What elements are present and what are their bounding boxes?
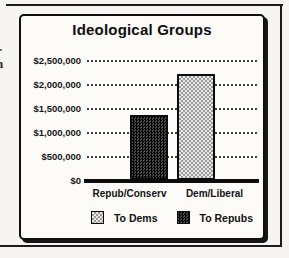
y-axis-label: $1,000,000 (17, 127, 81, 138)
y-axis-label: $2,000,000 (17, 79, 81, 90)
page-frame-bottom-line (0, 245, 282, 247)
margin-text-fragment: n (0, 57, 3, 70)
bar-to-dems (177, 74, 215, 180)
legend-item: To Repubs (177, 211, 253, 224)
page-frame-right-line (280, 4, 282, 247)
plot-area: To DemsTo Repubs $2,500,000$2,000,000$1,… (87, 60, 257, 180)
x-axis-label: Dem/Liberal (170, 188, 260, 199)
y-axis-label: $0 (17, 175, 81, 186)
legend-swatch-dark (177, 211, 190, 224)
x-axis-label: Repub/Conserv (85, 188, 175, 199)
page-frame-top-line (6, 4, 283, 6)
legend-label: To Repubs (200, 212, 253, 224)
bar-to-repubs (130, 115, 168, 180)
gridline (87, 84, 257, 86)
legend-item: To Dems (91, 211, 158, 224)
legend-label: To Dems (114, 212, 158, 224)
y-axis-label: $500,000 (17, 151, 81, 162)
chart-panel: Ideological Groups To DemsTo Repubs $2,5… (19, 14, 265, 240)
left-margin-text: l-rn (0, 0, 7, 90)
y-axis-label: $1,500,000 (17, 103, 81, 114)
gridline (87, 132, 257, 134)
gridline (87, 108, 257, 110)
legend: To DemsTo Repubs (87, 211, 257, 224)
gridline (87, 156, 257, 158)
chart-title: Ideological Groups (21, 21, 263, 38)
gridline (87, 60, 257, 62)
scanned-page: l-rn Ideological Groups To DemsTo Repubs… (0, 0, 289, 258)
legend-swatch-light (91, 211, 104, 224)
x-axis-baseline (84, 179, 259, 183)
y-axis-label: $2,500,000 (17, 55, 81, 66)
